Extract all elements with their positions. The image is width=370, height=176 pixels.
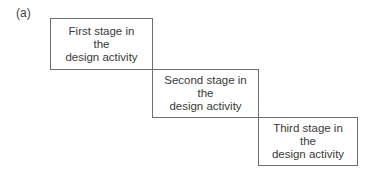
stage-text-line: design activity — [272, 148, 344, 161]
stage-text-line: design activity — [164, 100, 246, 113]
stage-box-first: First stage in the design activity — [50, 18, 153, 70]
stage-text-line: design activity — [65, 51, 137, 64]
panel-label: (a) — [16, 6, 31, 20]
stage-text-line: the — [164, 87, 246, 100]
stage-box-third: Third stage in the design activity — [258, 117, 358, 166]
stage-text-line: the — [272, 135, 344, 148]
stage-text-line: Third stage in — [272, 122, 344, 135]
stage-text-line: the — [65, 38, 137, 51]
stage-box-second: Second stage in the design activity — [152, 69, 259, 118]
stage-text-line: Second stage in — [164, 74, 246, 87]
stage-text-line: First stage in — [65, 25, 137, 38]
